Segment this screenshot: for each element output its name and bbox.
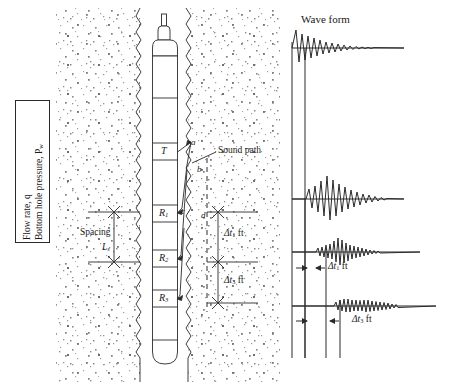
path-point-c-label: c bbox=[181, 207, 185, 216]
receiver3-label: R3 bbox=[159, 293, 168, 304]
dt1-arrow-pair bbox=[296, 265, 325, 271]
spacing-label: Spacing bbox=[80, 228, 111, 238]
receiver2-label: R2 bbox=[159, 253, 168, 264]
figure-canvas: Flow rate, q Bottom hole pressure, Pw Sp… bbox=[0, 0, 461, 390]
waveform-dt1-label: Δt1 ft bbox=[328, 262, 348, 272]
waveform-panel bbox=[292, 30, 436, 358]
path-point-d-label: d bbox=[201, 211, 206, 220]
sonde-body bbox=[153, 14, 178, 364]
waveform-dt3-label: Δt3 ft bbox=[352, 315, 372, 325]
transmitter-label: T bbox=[161, 146, 167, 156]
path-point-a-label: a bbox=[191, 138, 196, 147]
receiver1-label: R1 bbox=[159, 208, 168, 219]
path-point-b-label: b bbox=[197, 165, 202, 174]
diagram-linework bbox=[0, 0, 461, 390]
interval-dt1-label: Δt1 ft bbox=[224, 229, 244, 239]
interval-dt3-label: Δt3 ft bbox=[224, 276, 244, 286]
flow-rate-label: Flow rate, q bbox=[21, 101, 34, 240]
spacing-symbol: Ls bbox=[102, 243, 110, 253]
sound-path-label: Sound path bbox=[218, 146, 261, 156]
flow-annotation-box: Flow rate, q Bottom hole pressure, Pw bbox=[15, 100, 50, 243]
waveform-title: Wave form bbox=[301, 14, 350, 25]
bottom-hole-pressure-label: Bottom hole pressure, Pw bbox=[33, 101, 46, 240]
dt3-arrow-pair bbox=[296, 318, 339, 324]
